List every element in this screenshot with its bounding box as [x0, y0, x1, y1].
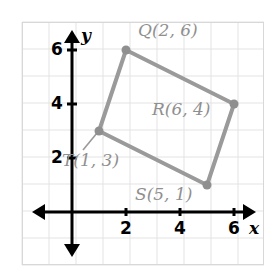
x-tick-label-4: 4 [174, 220, 186, 237]
point-label-q: Q(2, 6) [138, 22, 198, 39]
y-tick-label-2: 2 [51, 149, 63, 166]
leader-line-t [83, 133, 97, 150]
y-tick-label-4: 4 [51, 95, 63, 112]
x-tick-label-2: 2 [120, 220, 132, 237]
x-axis-label: x [249, 220, 259, 237]
point-label-t: T(1, 3) [62, 152, 119, 169]
point-label-s: S(5, 1) [135, 186, 192, 203]
coordinate-plane-figure: Q(2, 6) R(6, 4) S(5, 1) T(1, 3) 2 4 6 6 … [0, 0, 267, 275]
y-tick-label-6: 6 [51, 41, 63, 58]
y-axis-label: y [81, 27, 91, 44]
x-tick-label-6: 6 [228, 220, 240, 237]
point-label-r: R(6, 4) [152, 101, 211, 118]
graph-canvas [0, 0, 267, 275]
